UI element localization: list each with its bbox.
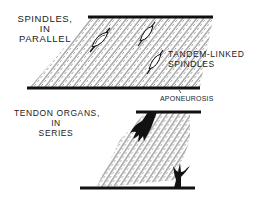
label-line: IN	[14, 118, 98, 128]
tandem-linked-spindles-label: TANDEM-LINKED SPINDLES	[168, 49, 245, 69]
label-line: SPINDLES	[168, 59, 245, 69]
series-muscle-panel	[80, 112, 201, 188]
spindles-in-parallel-label: SPINDLES, IN PARALLEL	[14, 14, 76, 44]
label-line: TENDON ORGANS,	[14, 108, 98, 118]
tendon-organs-in-series-label: TENDON ORGANS, IN SERIES	[14, 108, 98, 138]
aponeurosis-pointer	[179, 90, 181, 93]
aponeurosis-label: APONEUROSIS	[160, 94, 214, 104]
aponeurosis-text: APONEUROSIS	[160, 95, 214, 102]
label-line: SERIES	[14, 128, 98, 138]
label-line: TANDEM-LINKED	[168, 49, 245, 59]
label-line: PARALLEL	[14, 34, 76, 44]
